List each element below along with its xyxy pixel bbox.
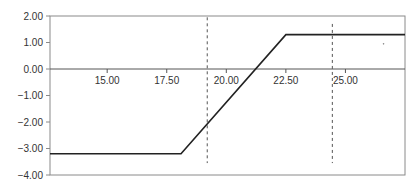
x-tick-label: 22.50 xyxy=(273,75,298,86)
x-tick-label: 20.00 xyxy=(214,75,239,86)
x-tick-label: 25.00 xyxy=(333,75,358,86)
y-tick-label: −2.00 xyxy=(18,117,44,128)
y-tick-label: 1.00 xyxy=(24,37,44,48)
plot-frame xyxy=(50,16,405,175)
x-tick-label: 17.50 xyxy=(154,75,179,86)
y-axis: 2.001.000.00−1.00−2.00−3.00−4.00 xyxy=(18,11,50,181)
y-tick-label: −3.00 xyxy=(18,143,44,154)
y-tick-label: −1.00 xyxy=(18,90,44,101)
plot-area xyxy=(50,16,405,175)
y-tick-label: 0.00 xyxy=(24,64,44,75)
y-tick-label: 2.00 xyxy=(24,11,44,22)
dot-marker xyxy=(383,43,385,45)
x-tick-label: 15.00 xyxy=(95,75,120,86)
y-tick-label: −4.00 xyxy=(18,170,44,181)
annotations xyxy=(383,43,385,45)
payoff-chart: 2.001.000.00−1.00−2.00−3.00−4.00 15.0017… xyxy=(0,0,420,185)
